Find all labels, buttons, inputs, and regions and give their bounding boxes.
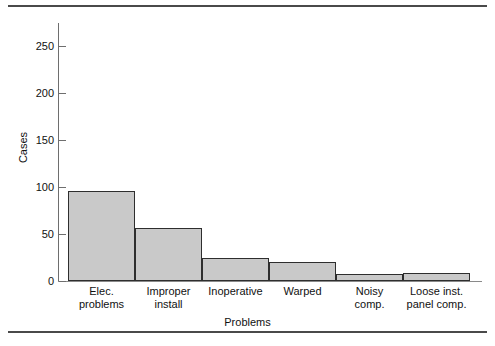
y-tick-label-wrap: 0 xyxy=(20,276,54,287)
y-tick-label: 200 xyxy=(24,88,54,99)
y-tick-200 xyxy=(59,93,66,94)
y-tick-label-wrap: 250 xyxy=(20,41,54,52)
x-tick-label: Noisycomp. xyxy=(336,285,403,311)
bar xyxy=(336,274,403,282)
x-tick-label-line: install xyxy=(135,298,202,311)
y-tick-label: 50 xyxy=(24,229,54,240)
bar xyxy=(403,273,470,281)
x-axis-category-labels: Elec.problemsImproperinstallInoperativeW… xyxy=(68,285,470,319)
x-tick-label-line: Loose inst. xyxy=(403,285,470,298)
y-axis-title: Cases xyxy=(18,118,29,178)
y-tick-100 xyxy=(59,187,66,188)
x-tick-label-line: Elec. xyxy=(68,285,135,298)
y-axis-line xyxy=(58,23,59,282)
y-tick-label-wrap: 100 xyxy=(20,182,54,193)
y-tick-label: 100 xyxy=(24,182,54,193)
x-axis-line xyxy=(58,281,482,282)
bar xyxy=(135,228,202,281)
y-tick-250 xyxy=(59,46,66,47)
x-tick-label-line: comp. xyxy=(336,298,403,311)
x-tick-label: Elec.problems xyxy=(68,285,135,311)
x-tick-label: Improperinstall xyxy=(135,285,202,311)
bar xyxy=(202,258,269,281)
y-tick-50 xyxy=(59,234,66,235)
x-tick-label: Inoperative xyxy=(202,285,269,298)
y-tick-label-wrap: 200 xyxy=(20,88,54,99)
x-tick-label-line: Improper xyxy=(135,285,202,298)
x-tick-label-line: problems xyxy=(68,298,135,311)
x-tick-label-line: Warped xyxy=(269,285,336,298)
x-tick-label: Warped xyxy=(269,285,336,298)
x-tick-label-line: panel comp. xyxy=(403,298,470,311)
y-tick-150 xyxy=(59,140,66,141)
y-tick-0 xyxy=(59,281,66,282)
bar xyxy=(269,262,336,281)
pareto-bar-chart: 050100150200250 Cases Elec.problemsImpro… xyxy=(0,0,495,346)
y-tick-label: 150 xyxy=(24,135,54,146)
x-tick-label-line: Noisy xyxy=(336,285,403,298)
x-tick-label-line: Inoperative xyxy=(202,285,269,298)
y-tick-label: 0 xyxy=(24,276,54,287)
x-tick-label: Loose inst.panel comp. xyxy=(403,285,470,311)
bar-series xyxy=(68,23,470,281)
y-tick-label-wrap: 50 xyxy=(20,229,54,240)
bar xyxy=(68,191,135,281)
x-axis-title: Problems xyxy=(0,316,495,328)
y-tick-label: 250 xyxy=(24,41,54,52)
